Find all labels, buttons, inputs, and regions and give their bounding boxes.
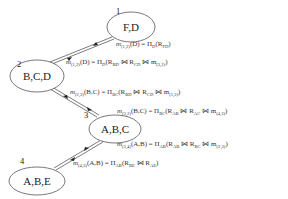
message-m32: m(3,2)(B,C) = ΠBC(RAB ⋈ RAC ⋈ m(4,3))	[117, 107, 228, 117]
message-m12-down: m(1,2)(D) = ΠD(RBD ⋈ RCD ⋈ m(3,2))	[66, 58, 168, 68]
node-label: A,B,C	[101, 123, 129, 135]
node-label: B,C,D	[23, 70, 51, 82]
message-m34: m(3,4)(A,B) = ΠAB(RAB ⋈ RBC ⋈ m(2,3))	[117, 140, 228, 150]
message-m43: m(4,3)(A,B) = ΠAB(RBE ⋈ RAE)	[73, 159, 159, 169]
node-2: 2 B,C,D	[10, 59, 64, 92]
junction-tree-diagram: 1 F,D 2 B,C,D 3 A,B,C 4 A,B,E m(1,2)(D) …	[0, 0, 288, 199]
node-number: 1	[116, 6, 120, 16]
node-4: 4 A,B,E	[9, 156, 65, 195]
node-1: 1 F,D	[107, 6, 155, 42]
node-number: 4	[20, 156, 25, 166]
node-number: 3	[84, 110, 88, 120]
node-number: 2	[17, 59, 21, 69]
node-label: A,B,E	[23, 175, 51, 187]
node-label: F,D	[123, 21, 139, 33]
message-m23: m(2,3)(B,C) = ΠBC(RBD ⋈ RCD ⋈ m(1,2))	[70, 88, 181, 98]
